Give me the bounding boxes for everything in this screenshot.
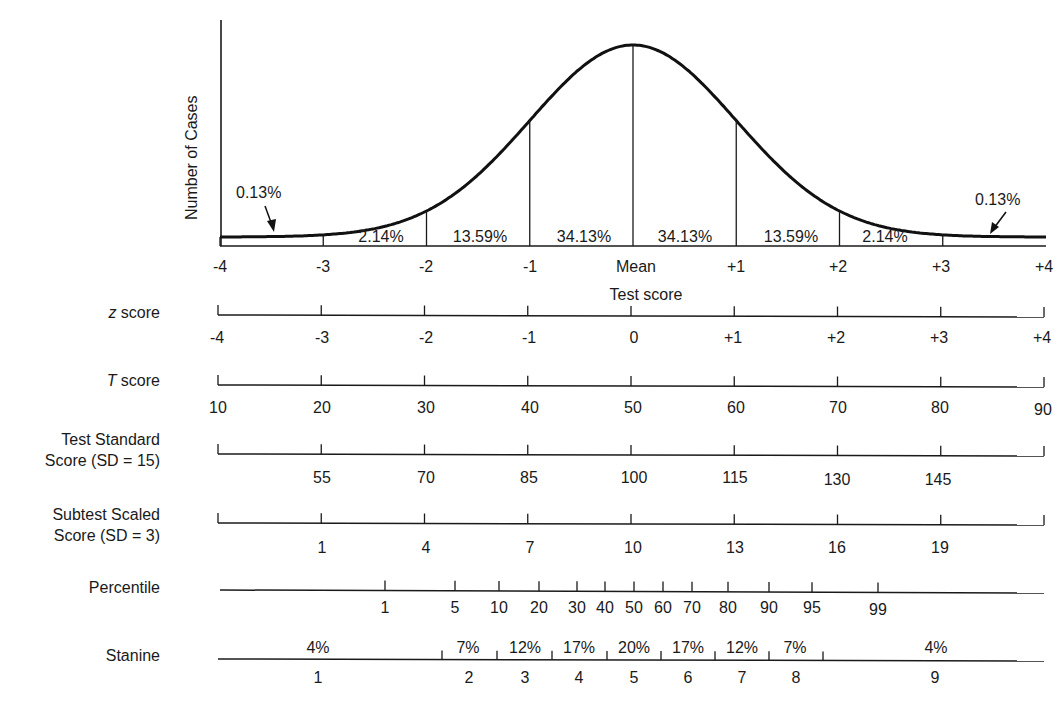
t-tick: 10 bbox=[209, 399, 227, 416]
t-scale-line bbox=[218, 375, 1044, 387]
percentile-tick: 10 bbox=[490, 599, 508, 616]
x-tick: -1 bbox=[523, 258, 537, 275]
stanine-percent: 4% bbox=[306, 639, 329, 656]
x-axis-label: Test score bbox=[610, 286, 683, 303]
region-label: 2.14% bbox=[862, 228, 907, 245]
standard-tick: 130 bbox=[824, 471, 851, 488]
y-axis-label: Number of Cases bbox=[183, 96, 200, 221]
t-tick: 90 bbox=[1034, 401, 1052, 418]
percentile-tick: 20 bbox=[530, 599, 548, 616]
stanine-percent: 20% bbox=[618, 639, 650, 656]
x-tick-labels: -4 -3 -2 -1 Mean +1 +2 +3 +4 bbox=[213, 258, 1053, 275]
stanine-percent: 17% bbox=[563, 639, 595, 656]
subtest-tick-labels: 1 4 7 10 13 16 19 bbox=[318, 539, 949, 556]
t-tick: 50 bbox=[624, 399, 642, 416]
z-tick: 0 bbox=[630, 329, 639, 346]
z-tick: -1 bbox=[522, 329, 536, 346]
t-score-row: T score 10 20 30 40 50 60 70 80 90 bbox=[107, 372, 1052, 418]
z-scale-line bbox=[218, 305, 1044, 317]
arrow-left-icon bbox=[265, 206, 276, 232]
subtest-scale-line bbox=[218, 513, 1044, 525]
percentile-tick: 90 bbox=[760, 599, 778, 616]
percentile-tick: 70 bbox=[683, 599, 701, 616]
standard-tick-labels: 55 70 85 100 115 130 145 bbox=[313, 469, 951, 488]
subtest-tick: 19 bbox=[931, 539, 949, 556]
x-tick: +1 bbox=[727, 258, 745, 275]
stanine-row: Stanine 4% 7% 12% 17% 20% 17% 12% 7% 4% … bbox=[106, 639, 1044, 686]
stanine-percent: 4% bbox=[924, 639, 947, 656]
z-tick: +4 bbox=[1033, 329, 1051, 346]
percentile-tick: 30 bbox=[568, 599, 586, 616]
subtest-tick: 10 bbox=[624, 539, 642, 556]
stanine-number: 4 bbox=[575, 669, 584, 686]
subtest-tick: 13 bbox=[726, 539, 744, 556]
z-tick: +3 bbox=[930, 329, 948, 346]
z-tick-labels: -4 -3 -2 -1 0 +1 +2 +3 +4 bbox=[210, 329, 1051, 346]
standard-score-label-2: Score (SD = 15) bbox=[45, 452, 160, 469]
stanine-percent-labels: 4% 7% 12% 17% 20% 17% 12% 7% 4% bbox=[306, 639, 947, 656]
standard-tick: 55 bbox=[313, 469, 331, 486]
t-tick: 30 bbox=[417, 399, 435, 416]
stanine-percent: 7% bbox=[456, 639, 479, 656]
t-tick: 40 bbox=[521, 399, 539, 416]
t-tick: 70 bbox=[829, 399, 847, 416]
t-tick-labels: 10 20 30 40 50 60 70 80 90 bbox=[209, 399, 1052, 418]
z-tick: -3 bbox=[315, 329, 329, 346]
percentile-tick: 80 bbox=[719, 599, 737, 616]
stanine-number: 2 bbox=[465, 669, 474, 686]
stanine-number: 1 bbox=[314, 669, 323, 686]
stanine-percent: 7% bbox=[783, 639, 806, 656]
z-rest: score bbox=[116, 304, 160, 321]
stanine-line bbox=[218, 659, 1044, 661]
stanine-number-labels: 1 2 3 4 5 6 7 8 9 bbox=[314, 669, 940, 686]
x-tick: Mean bbox=[616, 258, 656, 275]
percentile-tick-labels: 1 5 10 20 30 40 50 60 70 80 90 95 99 bbox=[381, 599, 887, 618]
subtest-score-row: Subtest Scaled Score (SD = 3) 1 4 7 10 1… bbox=[52, 506, 1044, 556]
t-score-label: T score bbox=[107, 372, 160, 389]
percentile-tick: 95 bbox=[803, 599, 821, 616]
z-italic: z bbox=[107, 304, 116, 321]
percentile-tick: 1 bbox=[381, 599, 390, 616]
percentile-row: Percentile 1 5 10 20 30 40 50 60 70 80 9… bbox=[89, 579, 1044, 618]
t-rest: score bbox=[116, 372, 160, 389]
x-tick: +4 bbox=[1035, 258, 1053, 275]
stanine-percent: 12% bbox=[509, 639, 541, 656]
standard-score-row: Test Standard Score (SD = 15) 55 70 85 1… bbox=[45, 431, 1044, 488]
region-label: 2.14% bbox=[358, 228, 403, 245]
region-label: 13.59% bbox=[764, 228, 818, 245]
percentile-tick: 50 bbox=[625, 599, 643, 616]
standard-tick: 145 bbox=[925, 471, 952, 488]
region-label: 13.59% bbox=[453, 228, 507, 245]
stanine-number: 7 bbox=[738, 669, 747, 686]
x-tick: -2 bbox=[419, 258, 433, 275]
z-tick: -4 bbox=[210, 329, 224, 346]
subtest-tick: 7 bbox=[526, 539, 535, 556]
t-tick: 20 bbox=[313, 399, 331, 416]
standard-score-label: Test Standard bbox=[61, 431, 160, 448]
x-tick: +3 bbox=[932, 258, 950, 275]
percentile-tick: 5 bbox=[451, 599, 460, 616]
arrow-right-icon bbox=[990, 212, 1006, 234]
z-score-label: z score bbox=[107, 304, 160, 321]
sd-dividers bbox=[220, 45, 943, 246]
standard-tick: 115 bbox=[722, 469, 748, 486]
percentile-tick: 40 bbox=[596, 599, 614, 616]
stanine-number: 6 bbox=[684, 669, 693, 686]
stanine-number: 8 bbox=[792, 669, 801, 686]
x-tick: +2 bbox=[829, 258, 847, 275]
region-label: 34.13% bbox=[658, 228, 712, 245]
stanine-label: Stanine bbox=[106, 647, 160, 664]
x-tick: -4 bbox=[213, 258, 227, 275]
t-tick: 60 bbox=[727, 399, 745, 416]
t-tick: 80 bbox=[931, 399, 949, 416]
stanine-number: 3 bbox=[521, 669, 530, 686]
region-label: 34.13% bbox=[557, 228, 611, 245]
percentile-tick: 99 bbox=[869, 601, 887, 618]
standard-tick: 100 bbox=[621, 469, 648, 486]
stanine-number: 9 bbox=[931, 669, 940, 686]
subtest-tick: 16 bbox=[828, 539, 846, 556]
standard-tick: 70 bbox=[417, 469, 435, 486]
percentile-tick: 60 bbox=[654, 599, 672, 616]
z-tick: +1 bbox=[724, 329, 742, 346]
z-tick: +2 bbox=[827, 329, 845, 346]
